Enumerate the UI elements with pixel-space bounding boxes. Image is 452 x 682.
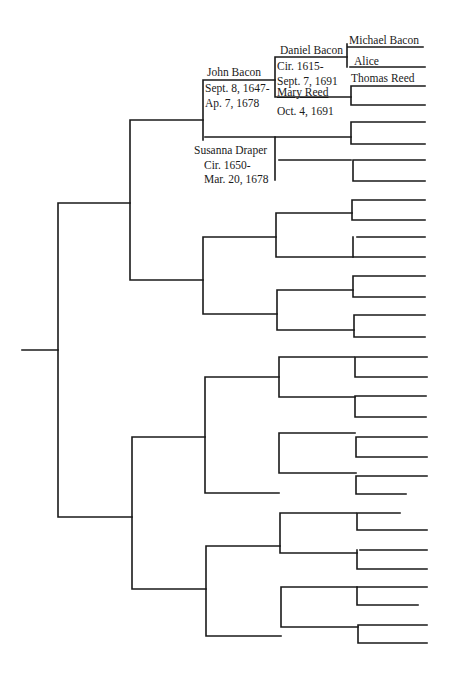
gen5-5 (352, 200, 425, 220)
gen5-reed-bracket (351, 86, 425, 105)
gen5-11 (356, 437, 427, 457)
thomas-reed-name: Thomas Reed (351, 72, 415, 85)
daniel-bacon-name: Daniel Bacon (280, 44, 343, 57)
gen5-13 (357, 513, 427, 530)
gen5-14 (357, 550, 427, 569)
gen5-16 (358, 625, 427, 643)
susanna-draper-name: Susanna Draper (194, 144, 267, 157)
gen4-b2-bracket (277, 290, 354, 330)
gen4-c2-bracket (279, 433, 356, 473)
gen5-3 (351, 122, 425, 144)
gen5-8 (354, 315, 425, 337)
gen1-bracket (58, 203, 132, 517)
gen4-d2-bracket (281, 587, 358, 627)
susanna-draper-born: Cir. 1650- (204, 159, 251, 172)
michael-bacon-name: Michael Bacon (349, 34, 419, 47)
john-bacon-died: Ap. 7, 1678 (205, 97, 259, 110)
gen4-d-bracket (280, 513, 357, 553)
gen5-7 (353, 276, 425, 297)
gen3-c-bracket (205, 377, 279, 493)
mary-reed-name: Mary Reed (277, 86, 328, 99)
gen3-b-bracket (203, 237, 277, 314)
gen4-c-bracket (279, 357, 355, 397)
susanna-draper-died: Mar. 20, 1678 (204, 173, 269, 186)
gen2-bottom-bracket (132, 437, 206, 589)
gen5-6 (353, 237, 425, 257)
john-bacon-born: Sept. 8, 1647- (205, 82, 270, 95)
gen5-9 (355, 357, 427, 377)
gen3-d-bracket (206, 546, 281, 636)
alice-name: Alice (354, 55, 379, 68)
gen2-top-bracket (130, 120, 203, 280)
daniel-bacon-born: Cir. 1615- (277, 60, 324, 73)
gen5-15 (357, 587, 427, 605)
gen5-4 (353, 160, 425, 181)
john-bacon-name: John Bacon (207, 66, 261, 79)
gen5-12 (356, 476, 427, 494)
gen4-b-bracket (276, 213, 353, 257)
mary-reed-died: Oct. 4, 1691 (277, 105, 334, 118)
gen4-s-bracket (275, 137, 351, 180)
gen5-10 (355, 396, 426, 417)
